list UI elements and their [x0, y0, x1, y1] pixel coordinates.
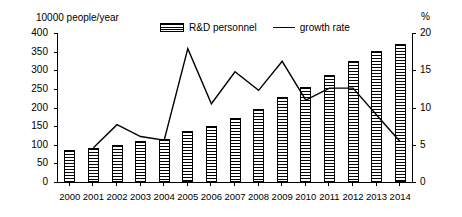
x-tick [140, 182, 141, 186]
y-tick-label-right: 5 [420, 140, 426, 150]
x-tick [116, 182, 117, 186]
y-tick-label-right: 10 [420, 103, 431, 113]
x-tick [187, 182, 188, 186]
x-tick-label-2010: 2010 [295, 191, 316, 202]
x-tick-label-2009: 2009 [272, 191, 293, 202]
y-tick-label-left: 300 [31, 65, 48, 75]
x-tick-label-2006: 2006 [201, 191, 222, 202]
y-tick-right [412, 70, 416, 71]
x-tick [352, 182, 353, 186]
x-tick-label-2005: 2005 [177, 191, 198, 202]
x-tick [399, 182, 400, 186]
x-axis [57, 182, 413, 183]
legend-label-rd-personnel: R&D personnel [189, 22, 257, 33]
x-tick-label-2000: 2000 [59, 191, 80, 202]
x-tick [328, 182, 329, 186]
y-tick-label-left: 350 [31, 47, 48, 57]
x-tick [163, 182, 164, 186]
y-tick-label-left: 200 [31, 103, 48, 113]
legend-entry-growth-rate: growth rate [273, 22, 350, 33]
x-tick-label-2008: 2008 [248, 191, 269, 202]
plot-area [58, 33, 412, 182]
y-axis-left-labels: 050100150200250300350400 [0, 0, 56, 217]
y-tick-label-left: 0 [42, 177, 48, 187]
growth-rate-polyline [93, 49, 400, 148]
x-tick-label-2002: 2002 [106, 191, 127, 202]
x-axis-labels: 2000200120022003200420052006200720082009… [58, 191, 412, 207]
x-tick [92, 182, 93, 186]
y-tick-label-right: 20 [420, 28, 431, 38]
x-tick [258, 182, 259, 186]
y-tick-right [412, 108, 416, 109]
x-tick-label-2003: 2003 [130, 191, 151, 202]
x-tick [69, 182, 70, 186]
x-tick-label-2004: 2004 [154, 191, 175, 202]
x-tick-label-2013: 2013 [366, 191, 387, 202]
x-tick-label-2012: 2012 [342, 191, 363, 202]
y-axis-right-labels: 05101520 [420, 0, 462, 217]
legend-entry-rd-personnel: R&D personnel [160, 22, 257, 33]
x-tick-label-2014: 2014 [390, 191, 411, 202]
legend-line-swatch-icon [273, 27, 295, 28]
x-tick-label-2007: 2007 [224, 191, 245, 202]
x-tick [281, 182, 282, 186]
chart-legend: R&D personnel growth rate [160, 20, 350, 34]
rd-personnel-growth-chart: 10000 people/year % R&D personnel growth… [0, 0, 462, 217]
y-tick-right [412, 145, 416, 146]
y-tick-label-right: 15 [420, 65, 431, 75]
y-tick-label-left: 150 [31, 121, 48, 131]
y-tick-label-right: 0 [420, 177, 426, 187]
legend-bar-swatch-icon [160, 23, 184, 32]
y-tick-label-left: 50 [37, 158, 48, 168]
x-tick [210, 182, 211, 186]
x-tick [234, 182, 235, 186]
y-tick-label-left: 400 [31, 28, 48, 38]
y-tick-label-left: 250 [31, 84, 48, 94]
growth-rate-line-series [58, 33, 412, 182]
x-tick [305, 182, 306, 186]
x-tick-label-2001: 2001 [83, 191, 104, 202]
x-tick [376, 182, 377, 186]
y-axis-right [412, 33, 413, 182]
legend-label-growth-rate: growth rate [300, 22, 350, 33]
x-tick-label-2011: 2011 [319, 191, 339, 202]
y-tick-right [412, 33, 416, 34]
y-tick-label-left: 100 [31, 140, 48, 150]
